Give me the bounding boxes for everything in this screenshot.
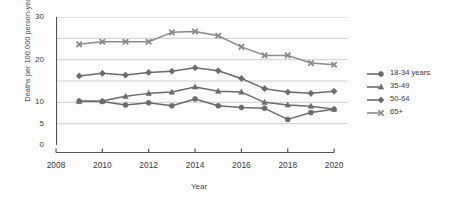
y-tick-label: 10 xyxy=(26,97,44,106)
legend-label: 65+ xyxy=(388,107,403,116)
series-4 xyxy=(76,29,336,68)
legend-item[interactable]: 65+ xyxy=(366,105,462,117)
y-tick-label: 5 xyxy=(26,119,44,128)
plot-area xyxy=(56,17,348,145)
y-tick-label: 20 xyxy=(26,55,44,64)
legend-marker-circle-icon xyxy=(366,66,388,78)
chart-legend: 18-34 years35-4950-6465+ xyxy=(366,66,462,118)
legend-label: 35-49 xyxy=(388,81,409,90)
chart-figure: Deaths per 100,000 person-years 05102030… xyxy=(0,0,464,201)
legend-item[interactable]: 50-64 xyxy=(366,92,462,104)
series-2 xyxy=(76,84,336,111)
legend-marker-triangle-icon xyxy=(366,79,388,91)
legend-item[interactable]: 18-34 years xyxy=(366,66,462,78)
x-axis-spine xyxy=(0,148,464,164)
y-tick-label: 30 xyxy=(26,12,44,21)
series-1 xyxy=(77,96,337,121)
legend-marker-x-icon xyxy=(366,105,388,117)
x-axis-title: Year xyxy=(42,182,356,191)
legend-label: 18-34 years xyxy=(388,68,430,77)
plot-svg xyxy=(56,17,348,145)
legend-label: 50-64 xyxy=(388,94,409,103)
legend-item[interactable]: 35-49 xyxy=(366,79,462,91)
legend-marker-diamond-icon xyxy=(366,92,388,104)
